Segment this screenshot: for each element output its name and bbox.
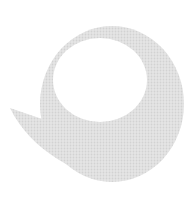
swirl-logo-canvas (0, 0, 193, 200)
crescent-shape (0, 0, 193, 200)
swirl-logo-icon (0, 0, 193, 200)
